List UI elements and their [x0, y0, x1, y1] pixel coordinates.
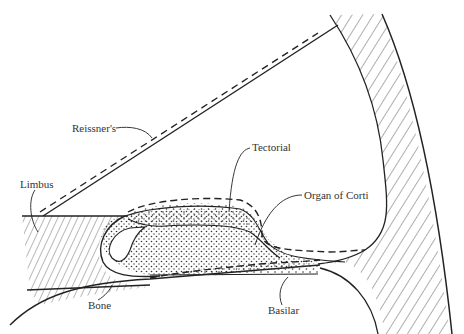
leader-reissner — [116, 127, 152, 138]
cochlea-diagram — [0, 0, 464, 334]
label-bone: Bone — [88, 300, 111, 311]
leader-basilar — [280, 277, 288, 305]
label-limbus: Limbus — [20, 179, 54, 190]
reissner-membrane-solid — [43, 25, 338, 216]
label-basilar: Basilar — [268, 305, 299, 316]
leader-tectorial — [229, 148, 250, 212]
label-reissner: Reissner's — [72, 123, 116, 134]
label-tectorial: Tectorial — [252, 142, 291, 153]
label-organ-of-corti: Organ of Corti — [304, 190, 369, 201]
